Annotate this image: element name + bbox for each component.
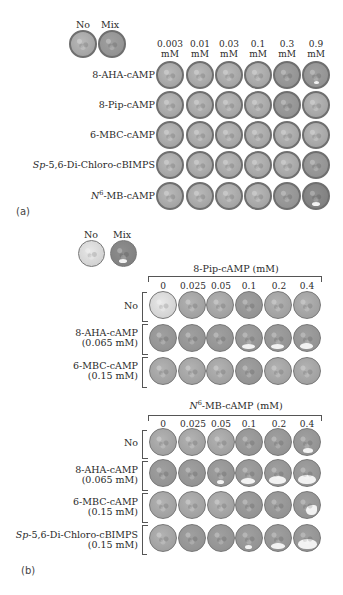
plate (215, 151, 243, 179)
plate (235, 428, 263, 456)
row-bracket (142, 324, 143, 354)
plate (186, 91, 214, 119)
row-label-n6-mb-camp: N6-MB-cAMP (91, 191, 155, 201)
plate (207, 459, 235, 487)
control-mix-label: Mix (113, 230, 131, 240)
row-label-8-aha-camp: 8-AHA-cAMP(0.065 mM) (75, 465, 138, 485)
bracket-tick-left (148, 276, 149, 282)
plate-control-mix (110, 240, 137, 267)
bracket-tick-right (321, 276, 322, 282)
plate (207, 491, 235, 519)
plate (156, 61, 184, 89)
plate-control-no (69, 30, 97, 58)
plate (244, 151, 272, 179)
row-label-8-aha-camp: 8-AHA-cAMP(0.065 mM) (75, 328, 138, 348)
row-bracket (142, 461, 143, 490)
plate (207, 428, 235, 456)
plate (302, 121, 330, 149)
row-label-sp-cbimps: Sp-5,6-Di-Chloro-cBIMPS(0.15 mM) (16, 530, 138, 550)
plate (186, 61, 214, 89)
row-bracket-tick (142, 522, 148, 523)
control-no-label: No (84, 230, 98, 240)
plate (178, 291, 206, 319)
row-bracket (142, 292, 143, 322)
plate (235, 324, 263, 352)
plate (244, 121, 272, 149)
plate (293, 291, 321, 319)
plate (293, 357, 321, 385)
panel-a-tag: (a) (16, 206, 30, 217)
plate (244, 91, 272, 119)
plate (149, 428, 177, 456)
row-bracket (142, 357, 143, 388)
conc-header-1: 0.003mM (157, 40, 183, 59)
plate (264, 324, 292, 352)
control-no-label: No (76, 20, 90, 30)
plate (293, 459, 321, 487)
plate (244, 61, 272, 89)
plate (264, 357, 292, 385)
plate (149, 459, 177, 487)
plate (273, 121, 301, 149)
plate (215, 91, 243, 119)
plate (293, 324, 321, 352)
row-label-6-mbc-camp: 6-MBC-cAMP(0.15 mM) (73, 361, 138, 381)
row-label-6-mbc-camp: 6-MBC-cAMP (90, 130, 155, 140)
plate (273, 91, 301, 119)
block-title: N6-MB-cAMP (mM) (189, 401, 282, 411)
plate (264, 491, 292, 519)
plate (302, 151, 330, 179)
plate (264, 291, 292, 319)
plate (149, 357, 177, 385)
bracket-tick-right (321, 415, 322, 421)
conc-header-2: 0.01mM (190, 40, 210, 59)
plate (302, 182, 330, 210)
plate (215, 61, 243, 89)
plate (206, 324, 234, 352)
plate (293, 524, 321, 552)
plate (293, 428, 321, 456)
plate (206, 291, 234, 319)
row-bracket-tick (142, 493, 148, 494)
plate (156, 151, 184, 179)
plate (215, 121, 243, 149)
bracket-tick-left (148, 415, 149, 421)
panel-b-tag: (b) (21, 565, 35, 576)
plate (207, 524, 235, 552)
plate (178, 524, 206, 552)
row-bracket-tick (142, 387, 147, 388)
plate (273, 151, 301, 179)
row-bracket-tick (142, 525, 148, 526)
control-mix-label: Mix (101, 20, 119, 30)
plate (156, 182, 184, 210)
plate-control-no (78, 240, 105, 267)
row-bracket-tick (142, 430, 147, 431)
plate (178, 428, 206, 456)
row-bracket-tick (142, 554, 147, 555)
row-bracket-tick (142, 461, 148, 462)
row-bracket (142, 493, 143, 522)
plate (264, 459, 292, 487)
plate (302, 91, 330, 119)
row-bracket-tick (142, 324, 148, 325)
row-bracket-tick (142, 458, 148, 459)
plate (149, 524, 177, 552)
plate (235, 491, 263, 519)
plate (302, 61, 330, 89)
plate (178, 324, 206, 352)
plate (235, 524, 263, 552)
plate (178, 491, 206, 519)
conc-header-5: 0.3mM (278, 40, 296, 59)
row-bracket (142, 525, 143, 555)
row-bracket-tick (142, 490, 148, 491)
row-bracket-tick (142, 357, 148, 358)
row-bracket-tick (142, 292, 147, 293)
plate (244, 182, 272, 210)
plate (273, 182, 301, 210)
row-label-8-pip-camp: 8-Pip-cAMP (99, 100, 155, 110)
plate (235, 357, 263, 385)
conc-header-4: 0.1mM (249, 40, 267, 59)
plate (235, 291, 263, 319)
plate (186, 151, 214, 179)
plate (206, 357, 234, 385)
